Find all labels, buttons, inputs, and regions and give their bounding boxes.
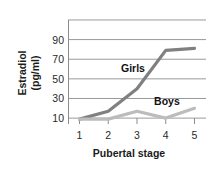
x-tick-label: 2 [100,130,116,141]
plot-area: GirlsBoys [68,18,206,124]
x-tick-label: 3 [129,130,145,141]
y-tick-label: 50 [42,74,64,85]
series-label-girls: Girls [121,62,145,74]
x-axis-title: Pubertal stage [54,147,204,159]
x-axis-tick-labels: 12345 [68,130,206,144]
series-label-boys: Boys [154,95,180,107]
y-tick-label: 90 [42,35,64,46]
x-tick-label: 5 [187,130,203,141]
y-tick-label: 10 [42,113,64,124]
y-axis-title-line1: Estradiol [16,51,29,96]
y-axis-title-line2: (pg/ml) [28,51,41,96]
x-tick-label: 4 [158,130,174,141]
y-tick-label: 70 [42,54,64,65]
x-tick-label: 1 [72,130,88,141]
estradiol-pubertal-stage-chart: Estradiol (pg/ml) 1030507090 GirlsBoys 1… [0,0,209,173]
y-tick-label: 30 [42,93,64,104]
